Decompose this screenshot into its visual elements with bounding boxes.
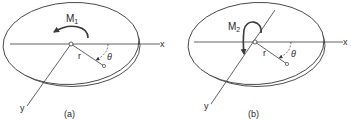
point-marker xyxy=(285,62,288,65)
y-axis-label: y xyxy=(204,101,209,111)
panel-b: M2 r θ x y (b) xyxy=(186,0,348,119)
panel-a: M1 r θ x y (a) xyxy=(1,0,165,119)
y-axis-label: y xyxy=(20,103,25,113)
radius-label: r xyxy=(263,48,266,58)
panel-caption: (b) xyxy=(248,109,259,119)
point-marker xyxy=(102,64,105,67)
radius-label: r xyxy=(78,51,81,61)
diagram-canvas: M1 r θ x y (a) M2 r θ x y (b) xyxy=(0,0,351,121)
panel-caption: (a) xyxy=(64,109,75,119)
x-axis-label: x xyxy=(343,37,348,47)
angle-label: θ xyxy=(107,52,112,62)
center-point xyxy=(69,42,73,46)
center-point xyxy=(253,40,257,44)
angle-label: θ xyxy=(291,49,296,59)
x-axis-label: x xyxy=(160,39,165,49)
